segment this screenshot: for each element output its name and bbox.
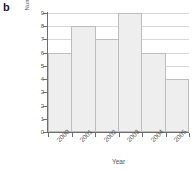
bar-2000	[48, 53, 72, 132]
bar-2001	[71, 26, 95, 132]
y-tick-label: 1	[30, 116, 44, 122]
x-tick	[48, 133, 49, 137]
y-tick-label: 8	[30, 23, 44, 29]
bar-series	[48, 13, 189, 132]
figure-panel-b: b Number of accidents 0123456789 2000200…	[0, 0, 193, 171]
x-tick	[95, 133, 96, 137]
y-tick-label: 6	[30, 50, 44, 56]
bar-2002	[95, 39, 119, 132]
bar-2003	[118, 13, 142, 132]
x-tick	[72, 133, 73, 137]
x-tick	[119, 133, 120, 137]
y-tick-label: 7	[30, 36, 44, 42]
y-tick-label: 9	[30, 10, 44, 16]
plot-area	[48, 13, 189, 132]
y-tick-label: 5	[30, 63, 44, 69]
y-tick-label: 4	[30, 76, 44, 82]
panel-label: b	[3, 2, 10, 13]
x-tick	[166, 133, 167, 137]
bar-2004	[141, 53, 165, 132]
bar-2005	[165, 79, 189, 132]
x-tick	[189, 133, 190, 137]
x-tick	[142, 133, 143, 137]
y-axis-line	[47, 12, 48, 133]
x-axis-title: Year	[48, 159, 189, 166]
y-tick-label: 0	[30, 129, 44, 135]
y-tick-label: 2	[30, 103, 44, 109]
y-tick-label: 3	[30, 89, 44, 95]
